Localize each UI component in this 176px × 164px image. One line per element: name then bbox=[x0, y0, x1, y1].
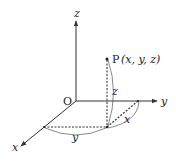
foot-point-dot bbox=[106, 126, 109, 129]
coordinate-diagram: z y x O P (x, y, z) z y x bbox=[0, 0, 176, 164]
x-foot-dot bbox=[43, 126, 45, 128]
y-axis-label: y bbox=[160, 95, 168, 108]
point-p-coords: (x, y, z) bbox=[121, 53, 160, 66]
diagram-canvas: z y x O P (x, y, z) z y x bbox=[0, 0, 176, 164]
z-length-label: z bbox=[111, 85, 118, 98]
y-length-label: y bbox=[71, 131, 79, 144]
point-p-label: P bbox=[112, 53, 120, 66]
y-foot-dot bbox=[137, 100, 139, 102]
origin-label: O bbox=[63, 95, 72, 108]
z-axis-label: z bbox=[73, 7, 80, 20]
x-length-label: x bbox=[124, 113, 131, 126]
x-axis-label: x bbox=[12, 141, 19, 154]
point-p-dot bbox=[106, 58, 109, 61]
